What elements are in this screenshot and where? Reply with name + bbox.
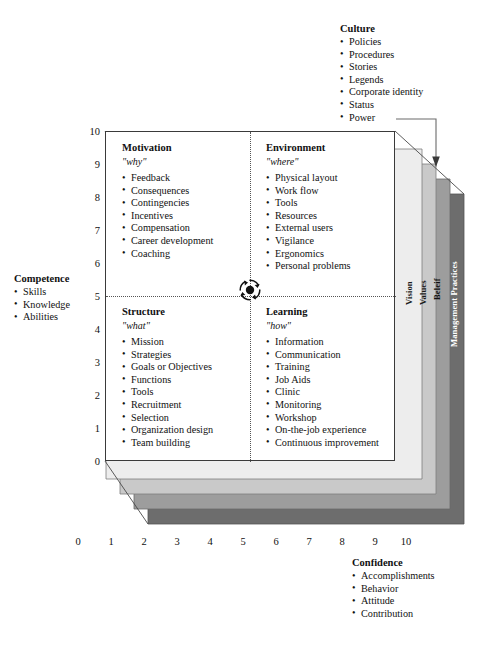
list-item: Procedures	[340, 49, 423, 62]
list-item: Personal problems	[266, 260, 351, 273]
x-tick: 9	[367, 536, 383, 547]
quadrant-title: Structure	[122, 305, 213, 318]
y-tick: 1	[82, 423, 100, 434]
list-item: Workshop	[266, 412, 379, 425]
quadrant-motivation[interactable]: Motivation "why" FeedbackConsequencesCon…	[122, 141, 213, 260]
quadrant-title: Learning	[266, 305, 379, 318]
list-item: On-the-job experience	[266, 424, 379, 437]
list-item: Mission	[122, 336, 213, 349]
list-item: Selection	[122, 412, 213, 425]
y-tick: 5	[82, 291, 100, 302]
annotation-item-list: SkillsKnowledgeAbilities	[14, 286, 70, 324]
list-item: Goals or Objectives	[122, 361, 213, 374]
list-item: Behavior	[352, 583, 435, 596]
y-tick: 2	[82, 390, 100, 401]
list-item: Compensation	[122, 222, 213, 235]
list-item: Power	[340, 112, 423, 125]
list-item: Contribution	[352, 608, 435, 621]
layer-label-beleif: Beleif	[432, 278, 442, 300]
quadrant-environment[interactable]: Environment "where" Physical layoutWork …	[266, 141, 351, 273]
list-item: Resources	[266, 210, 351, 223]
x-tick: 0	[70, 536, 86, 547]
annotation-title: Culture	[340, 22, 423, 35]
list-item: Abilities	[14, 311, 70, 324]
list-item: Communication	[266, 349, 379, 362]
list-item: Consequences	[122, 185, 213, 198]
quadrant-learning[interactable]: Learning "how" InformationCommunicationT…	[266, 305, 379, 449]
list-item: Coaching	[122, 248, 213, 261]
y-tick: 8	[82, 192, 100, 203]
x-tick: 8	[334, 536, 350, 547]
y-tick: 10	[82, 126, 100, 137]
list-item: Monitoring	[266, 399, 379, 412]
y-tick: 0	[82, 456, 100, 467]
list-item: Skills	[14, 286, 70, 299]
quadrant-item-list: MissionStrategiesGoals or ObjectivesFunc…	[122, 336, 213, 449]
quadrant-subtitle: "where"	[266, 155, 351, 168]
list-item: Clinic	[266, 386, 379, 399]
list-item: Information	[266, 336, 379, 349]
y-tick: 3	[82, 357, 100, 368]
list-item: Attitude	[352, 595, 435, 608]
annotation-competence[interactable]: Competence SkillsKnowledgeAbilities	[14, 272, 70, 324]
x-tick: 10	[398, 536, 414, 547]
annotation-title: Confidence	[352, 556, 435, 569]
list-item: Knowledge	[14, 299, 70, 312]
list-item: Ergonomics	[266, 248, 351, 261]
annotation-culture[interactable]: Culture PoliciesProceduresStoriesLegends…	[340, 22, 423, 124]
list-item: Functions	[122, 374, 213, 387]
x-tick: 6	[268, 536, 284, 547]
list-item: Work flow	[266, 185, 351, 198]
cycle-arrows-icon	[232, 272, 268, 308]
list-item: Continuous improvement	[266, 437, 379, 450]
quadrant-subtitle: "how"	[266, 319, 379, 332]
list-item: Tools	[122, 386, 213, 399]
list-item: Corporate identity	[340, 86, 423, 99]
list-item: Accomplishments	[352, 570, 435, 583]
layer-label-management-practices: Management Practices	[449, 261, 459, 347]
list-item: Status	[340, 99, 423, 112]
annotation-item-list: PoliciesProceduresStoriesLegendsCorporat…	[340, 36, 423, 124]
x-tick: 7	[301, 536, 317, 547]
list-item: Career development	[122, 235, 213, 248]
list-item: Job Aids	[266, 374, 379, 387]
quadrant-item-list: FeedbackConsequencesContingenciesIncenti…	[122, 172, 213, 260]
quadrant-subtitle: "why"	[122, 155, 213, 168]
annotation-title: Competence	[14, 272, 70, 285]
y-tick: 6	[82, 258, 100, 269]
quadrant-item-list: InformationCommunicationTrainingJob Aids…	[266, 336, 379, 449]
list-item: Strategies	[122, 349, 213, 362]
list-item: Stories	[340, 61, 423, 74]
y-tick: 4	[82, 324, 100, 335]
list-item: Incentives	[122, 210, 213, 223]
layer-label-vision: Vision	[404, 281, 414, 305]
list-item: Organization design	[122, 424, 213, 437]
quadrant-title: Motivation	[122, 141, 213, 154]
list-item: External users	[266, 222, 351, 235]
diagram-canvas: Motivation "why" FeedbackConsequencesCon…	[0, 0, 482, 647]
quadrant-item-list: Physical layoutWork flowToolsResourcesEx…	[266, 172, 351, 273]
quadrant-structure[interactable]: Structure "what" MissionStrategiesGoals …	[122, 305, 213, 449]
list-item: Vigilance	[266, 235, 351, 248]
list-item: Recruitment	[122, 399, 213, 412]
y-tick: 9	[82, 159, 100, 170]
x-tick: 3	[169, 536, 185, 547]
list-item: Feedback	[122, 172, 213, 185]
y-tick: 7	[82, 225, 100, 236]
list-item: Team building	[122, 437, 213, 450]
list-item: Policies	[340, 36, 423, 49]
x-tick: 4	[202, 536, 218, 547]
list-item: Contingencies	[122, 197, 213, 210]
quadrant-subtitle: "what"	[122, 319, 213, 332]
list-item: Tools	[266, 197, 351, 210]
annotation-confidence[interactable]: Confidence AccomplishmentsBehaviorAttitu…	[352, 556, 435, 620]
x-tick: 5	[235, 536, 251, 547]
x-tick: 1	[103, 536, 119, 547]
list-item: Training	[266, 361, 379, 374]
annotation-item-list: AccomplishmentsBehaviorAttitudeContribut…	[352, 570, 435, 620]
x-tick: 2	[136, 536, 152, 547]
layer-label-values: Values	[418, 280, 428, 305]
list-item: Physical layout	[266, 172, 351, 185]
list-item: Legends	[340, 74, 423, 87]
quadrant-title: Environment	[266, 141, 351, 154]
